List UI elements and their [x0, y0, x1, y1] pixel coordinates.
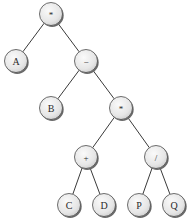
node-label: * — [119, 104, 124, 114]
tree-node-operator: − — [75, 50, 99, 74]
node-label: P — [136, 200, 142, 211]
edge-n5-n6 — [93, 117, 115, 147]
tree-node-operator: * — [110, 97, 134, 121]
edge-n3-n4 — [58, 70, 79, 99]
tree-node-operand: A — [5, 50, 29, 74]
expression-tree-diagram: *A−B*+/CDPQ — [0, 0, 188, 220]
node-label: + — [83, 153, 88, 163]
edge-n3-n5 — [93, 70, 114, 99]
node-label: D — [100, 200, 107, 211]
tree-node-operator: * — [40, 3, 64, 27]
tree-node-operand: C — [58, 194, 82, 218]
nodes-layer: *A−B*+/CDPQ — [5, 3, 187, 218]
edge-n1-n3 — [58, 23, 79, 52]
edge-n7-n11 — [160, 168, 170, 194]
tree-node-operator: + — [75, 146, 99, 170]
node-label: C — [66, 200, 73, 211]
tree-node-operand: Q — [163, 194, 187, 218]
edge-n6-n9 — [90, 168, 100, 194]
edge-n5-n7 — [128, 117, 150, 147]
node-label: Q — [170, 200, 178, 211]
node-label: A — [12, 56, 20, 67]
tree-node-operand: B — [40, 97, 64, 121]
node-label: B — [48, 103, 55, 114]
tree-node-operator: / — [145, 146, 169, 170]
edge-n6-n8 — [73, 168, 82, 194]
node-label: − — [83, 57, 88, 67]
tree-node-operand: P — [128, 194, 152, 218]
node-label: * — [49, 10, 54, 20]
edge-n7-n10 — [143, 168, 152, 194]
tree-svg: *A−B*+/CDPQ — [0, 0, 188, 220]
edge-n1-n2 — [23, 23, 44, 52]
tree-node-operand: D — [93, 194, 117, 218]
